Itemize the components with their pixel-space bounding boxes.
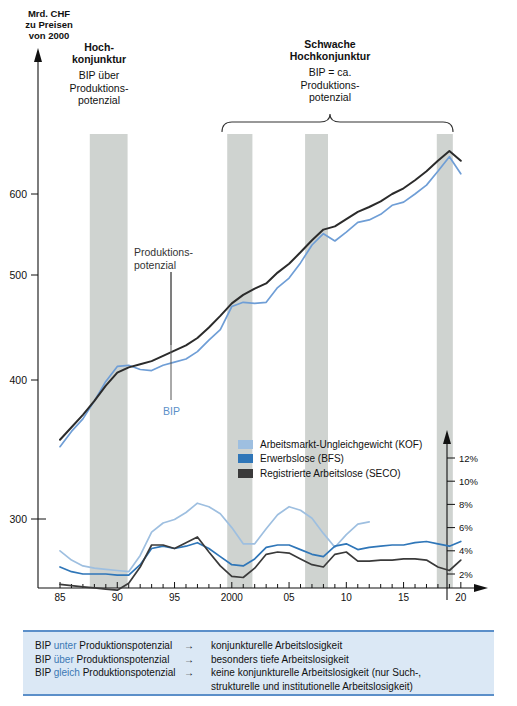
footnote-arrow-icon: → (167, 653, 211, 667)
y-right-tick-label: 4% (459, 545, 473, 556)
legend-swatch-seco (238, 469, 253, 478)
legend-label-seco: Registrierte Arbeitslose (SECO) (260, 468, 401, 479)
phase-bracket-right (222, 114, 453, 132)
x-tick-label: 20 (455, 592, 467, 603)
footnote-result: konjunkturelle Arbeitslosigkeit (211, 639, 491, 653)
footnote-result: besonders tiefe Arbeitslosigkeit (211, 653, 491, 667)
legend-label-kof: Arbeitsmarkt-Ungleichgewicht (KOF) (260, 439, 422, 450)
chart-legend: Arbeitsmarkt-Ungleichgewicht (KOF) Erwer… (238, 437, 478, 481)
recession-band (90, 134, 128, 588)
legend-item-seco: Registrierte Arbeitslose (SECO) (238, 466, 478, 481)
recession-band (227, 134, 252, 588)
footnote-result-line2: strukturelle und institutionelle Arbeits… (211, 681, 413, 692)
footnote-post: Produktionspotenzial (83, 667, 176, 678)
recession-band (305, 134, 328, 588)
y-right-tick-label: 2% (459, 569, 473, 580)
footnote-row: BIP gleich Produktionspotenzial → keine … (35, 666, 491, 693)
footnote-keyword: über (54, 654, 74, 665)
footnote-condition: BIP unter Produktionspotenzial (35, 639, 167, 653)
y-tick-label: 300 (9, 513, 27, 525)
footnote-row: BIP über Produktionspotenzial → besonder… (35, 653, 491, 667)
x-tick-label: 05 (283, 592, 295, 603)
x-tick-label: 15 (398, 592, 410, 603)
y-tick-label: 600 (9, 188, 27, 200)
footnote-box: BIP unter Produktionspotenzial → konjunk… (23, 630, 494, 696)
y-right-tick-label: 8% (459, 499, 473, 510)
footnote-keyword: gleich (54, 667, 80, 678)
footnote-arrow-icon: → (167, 666, 211, 680)
x-tick-label: 95 (169, 592, 181, 603)
y-axis-arrow-icon (34, 48, 42, 62)
footnote-arrow-icon: → (167, 639, 211, 653)
footnote-post: Produktionspotenzial (77, 654, 170, 665)
y-right-tick-label: 6% (459, 522, 473, 533)
footnote-keyword: unter (54, 640, 77, 651)
footnote-pre: BIP (35, 640, 51, 651)
legend-item-kof: Arbeitsmarkt-Ungleichgewicht (KOF) (238, 437, 478, 452)
recession-band (437, 134, 453, 588)
footnote-grid: BIP unter Produktionspotenzial → konjunk… (35, 639, 491, 693)
footnote-pre: BIP (35, 654, 51, 665)
y-tick-label: 400 (9, 374, 27, 386)
x-axis-arrow-icon (474, 584, 488, 592)
footnote-row: BIP unter Produktionspotenzial → konjunk… (35, 639, 491, 653)
legend-swatch-kof (238, 440, 253, 449)
chart-canvas: 3004005006002%4%6%8%10%12%85909520000510… (0, 0, 517, 706)
footnote-result: keine konjunkturelle Arbeitslosigkeit (n… (211, 666, 491, 693)
footnote-pre: BIP (35, 667, 51, 678)
x-tick-label: 90 (112, 592, 124, 603)
x-tick-label: 10 (341, 592, 353, 603)
legend-item-bfs: Erwerbslose (BFS) (238, 452, 478, 467)
footnote-condition: BIP über Produktionspotenzial (35, 653, 167, 667)
x-tick-label: 2000 (221, 592, 244, 603)
footnote-condition: BIP gleich Produktionspotenzial (35, 666, 167, 680)
legend-label-bfs: Erwerbslose (BFS) (260, 453, 344, 464)
footnote-result-line1: keine konjunkturelle Arbeitslosigkeit (n… (211, 667, 421, 678)
legend-swatch-bfs (238, 454, 253, 463)
y-tick-label: 500 (9, 269, 27, 281)
x-tick-label: 85 (54, 592, 66, 603)
footnote-post: Produktionspotenzial (79, 640, 172, 651)
